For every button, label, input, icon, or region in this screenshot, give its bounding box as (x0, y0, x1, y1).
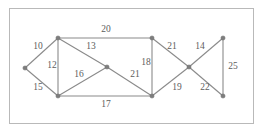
edge-weight-label: 13 (86, 42, 96, 52)
edge-weight-label: 21 (167, 42, 177, 52)
graph-node (150, 94, 154, 98)
graph-edge (58, 38, 107, 67)
edge-weight-label: 14 (195, 42, 205, 52)
edge-weight-label: 18 (141, 58, 151, 68)
graph-node (23, 66, 27, 70)
graph-node (56, 94, 60, 98)
edge-weight-label: 16 (74, 70, 84, 80)
graph-node (221, 36, 225, 40)
graph-edge (152, 67, 189, 96)
edge-weight-label: 17 (101, 100, 111, 110)
graph-diagram-screenshot: 1015121320161721182119142225 (0, 0, 264, 133)
graph-edge (189, 38, 223, 67)
graph-node (56, 36, 60, 40)
edge-weight-label: 21 (130, 70, 140, 80)
edge-weight-label: 10 (33, 42, 43, 52)
edge-weight-label: 25 (228, 62, 238, 72)
graph-canvas (0, 0, 264, 133)
edge-weight-label: 12 (47, 61, 57, 71)
edge-weight-label: 15 (33, 83, 43, 93)
graph-node (105, 65, 109, 69)
edge-weight-label: 22 (200, 83, 210, 93)
edge-weight-label: 19 (172, 83, 182, 93)
edge-weight-label: 20 (101, 25, 111, 35)
graph-node (150, 36, 154, 40)
graph-node (221, 94, 225, 98)
graph-node (187, 65, 191, 69)
